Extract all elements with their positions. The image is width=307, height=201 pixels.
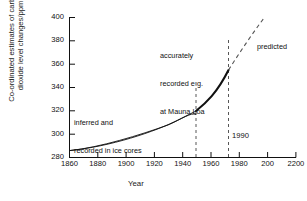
annotation-ice-cores-line1: inferred and bbox=[74, 118, 142, 127]
y-tick-label-340: 340 bbox=[38, 83, 64, 92]
annotation-mauna-loa: accurately recorded e.g. at Mauna Loa bbox=[160, 33, 205, 134]
x-axis-label: Year bbox=[128, 179, 144, 188]
x-tick-label-2200: 2200 bbox=[281, 160, 307, 169]
x-tick-label-1920: 1920 bbox=[140, 160, 169, 169]
annotation-ice-cores: inferred and recorded in ice cores bbox=[74, 100, 142, 174]
chart-canvas bbox=[0, 0, 307, 201]
figure: 400 380 360 340 320 300 280 1860 1880 19… bbox=[0, 0, 307, 201]
annotation-mauna-loa-line1: accurately bbox=[160, 51, 205, 60]
y-tick-label-320: 320 bbox=[38, 106, 64, 115]
x-tick-label-2000: 200 bbox=[253, 160, 282, 169]
x-tick-label-1940: 1940 bbox=[168, 160, 197, 169]
y-tick-label-300: 300 bbox=[38, 130, 64, 139]
y-axis-label-line1: Co-ordinated estimates of carbon bbox=[7, 0, 16, 105]
y-tick-label-360: 360 bbox=[38, 60, 64, 69]
y-tick-label-380: 380 bbox=[38, 36, 64, 45]
annotation-ice-cores-line2: recorded in ice cores bbox=[74, 146, 142, 155]
y-axis-label: Co-ordinated estimates of carbon dioxide… bbox=[7, 0, 26, 105]
annotation-year-1990: 1990 bbox=[232, 131, 249, 141]
y-axis-label-line2: dioxide level changes/ppm bbox=[16, 0, 25, 105]
y-tick-label-400: 400 bbox=[38, 13, 64, 22]
annotation-mauna-loa-line2: recorded e.g. bbox=[160, 79, 205, 88]
x-tick-label-1960: 1960 bbox=[197, 160, 226, 169]
annotation-predicted: predicted bbox=[257, 42, 287, 51]
annotation-mauna-loa-line3: at Mauna Loa bbox=[160, 107, 205, 116]
x-tick-label-1980: 1980 bbox=[225, 160, 254, 169]
